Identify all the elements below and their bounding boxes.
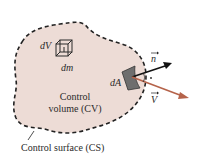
cv-label-line1: Control	[60, 91, 91, 102]
n-label: n	[151, 53, 156, 64]
angle-dot	[150, 77, 152, 79]
control-volume-diagram: dV dm dA n V Control volume (CV) Control…	[0, 0, 201, 161]
V-label: V	[151, 94, 159, 105]
dA-label: dA	[110, 77, 122, 88]
dV-label: dV	[40, 40, 53, 51]
cs-label: Control surface (CS)	[21, 142, 104, 154]
velocity-arrowhead-icon	[178, 92, 189, 99]
cv-label-line2: volume (CV)	[48, 103, 101, 115]
dm-label: dm	[61, 62, 73, 73]
cs-leader-line	[28, 131, 34, 140]
